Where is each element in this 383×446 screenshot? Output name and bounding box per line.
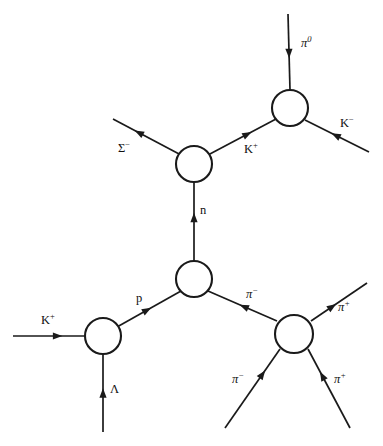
tracks-layer [13,14,369,432]
vertex-sigma-minus-vertex [176,146,212,182]
track-line-piplus-lower-right [308,349,350,428]
vertex-central-vertex [176,261,212,297]
track-label-kminus: K− [340,115,354,130]
track-label-proton: p [136,292,142,305]
arrowhead-piminus-central [240,305,250,312]
track-line-piminus-lower-left [225,349,280,428]
arrowhead-proton [141,308,151,316]
track-label-kplus-upper: K+ [244,141,258,156]
arrowhead-piplus-upper-right [326,304,336,312]
particle-interaction-diagram: π0K−K+Σ−npK+Λπ−π+π−π+ [0,0,383,446]
track-label-pi0: π0 [301,35,312,50]
arrowhead-neutron [190,213,197,223]
label-charge-superscript: + [344,298,350,308]
arrowhead-kplus-beam [53,332,63,339]
vertex-four-prong-pion-vertex [275,315,313,353]
label-symbol: K [340,116,349,130]
label-symbol: K [244,142,253,156]
track-label-piplus-lower-right: π+ [334,371,346,386]
track-line-kplus-upper [208,119,276,155]
label-charge-superscript: + [340,370,346,380]
vertex-k-plus-lambda-vertex [85,318,121,354]
track-label-lambda: Λ [110,383,119,396]
arrowhead-sigma-minus [135,130,145,138]
label-charge-superscript: 0 [307,34,311,44]
label-charge-superscript: − [252,285,258,295]
label-charge-superscript: + [50,311,55,321]
arrowhead-piplus-lower-right [320,372,328,382]
track-label-kplus-beam: K+ [41,312,55,327]
track-label-neutron: n [200,204,206,217]
label-symbol: K [41,313,50,327]
track-label-sigma-minus: Σ− [118,140,130,155]
label-symbol: p [136,291,142,305]
arrowhead-pi0 [285,49,292,59]
arrowhead-kplus-upper [242,132,252,140]
label-charge-superscript: − [349,114,354,124]
track-label-piplus-upper-right: π+ [338,299,350,314]
label-charge-superscript: − [125,139,130,149]
diagram-canvas [0,0,383,446]
label-symbol: n [200,203,206,217]
vertices-layer [85,90,313,354]
arrowhead-piminus-lower-left [257,370,265,380]
label-charge-superscript: − [238,370,244,380]
track-label-piminus-central: π− [246,286,258,301]
track-label-piminus-lower-left: π− [232,371,244,386]
label-charge-superscript: + [253,140,258,150]
label-symbol: Λ [110,382,119,396]
vertex-pi-zero-k-minus-vertex [272,90,308,126]
arrowhead-kminus [331,133,341,140]
arrowhead-lambda [99,388,106,398]
